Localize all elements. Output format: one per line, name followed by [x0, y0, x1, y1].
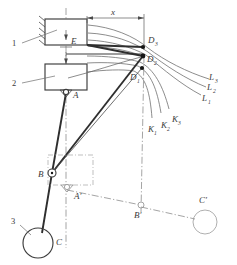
link-b-to-c [42, 173, 52, 233]
label-point-d3-base: D [147, 35, 155, 45]
joint-a-pin [63, 89, 68, 94]
label-point-d2-base: D [146, 54, 154, 64]
joint-a-prime-pin [64, 184, 69, 189]
label-curve-l3-sub: 3 [214, 78, 218, 84]
label-part-1: 1 [12, 38, 16, 48]
diagram-canvas: 1 2 3 x E D 3 D 2 D 1 A B C A′ B′ C′ L 3 [0, 0, 237, 265]
centerline-vertical-right [141, 56, 144, 212]
point-d3-dot [141, 45, 145, 49]
roller-3-circle [23, 228, 53, 258]
label-curve-l1-base: L [201, 93, 207, 103]
label-curve-k1-sub: 1 [154, 130, 157, 136]
label-point-b-prime: B′ [134, 210, 142, 220]
label-curve-l1: L 1 [201, 93, 211, 105]
link-a-to-b [52, 93, 66, 173]
label-curve-l2-base: L [206, 82, 212, 92]
label-curve-l3-base: L [208, 72, 214, 82]
label-curve-k3-sub: 3 [177, 120, 181, 126]
label-dimension-e: E [70, 36, 77, 46]
label-curve-k1: K 1 [147, 124, 157, 136]
label-point-d1-base: D [129, 72, 137, 82]
label-curve-k3: K 3 [171, 114, 181, 126]
joint-b-center [51, 172, 53, 174]
label-curve-k2: K 2 [160, 120, 170, 132]
label-point-d3-sub: 3 [154, 41, 158, 47]
label-part-2: 2 [12, 78, 16, 88]
label-point-a-prime: A′ [73, 191, 82, 201]
label-point-d2-sub: 2 [154, 60, 157, 66]
label-point-a: A [72, 90, 79, 100]
leader-part-3 [20, 225, 31, 235]
label-point-b: B [38, 169, 44, 179]
label-point-d3: D 3 [147, 35, 158, 47]
roller-c-prime-circle [193, 210, 217, 234]
label-point-c: C [56, 237, 63, 247]
label-dimension-x: x [110, 7, 115, 17]
block-1-hatching [39, 16, 45, 45]
label-point-c-prime: C′ [199, 195, 208, 205]
dimension-x-arrow-left [87, 16, 93, 20]
point-d2-dot [141, 54, 146, 59]
ghost-link-bprime-cprime [141, 207, 195, 219]
dimension-x-arrow-right [138, 16, 144, 20]
kinematic-diagram-figure: 1 2 3 x E D 3 D 2 D 1 A B C A′ B′ C′ L 3 [0, 0, 237, 265]
dimension-e-arrow-bottom [64, 59, 68, 65]
label-point-d2: D 2 [146, 54, 157, 66]
label-curve-k2-sub: 2 [167, 126, 170, 132]
label-curve-l1-sub: 1 [208, 99, 211, 105]
label-curve-l2-sub: 2 [213, 88, 216, 94]
label-part-3: 3 [11, 216, 15, 226]
label-point-d1-sub: 1 [137, 78, 140, 84]
point-d1-dot [140, 66, 144, 70]
